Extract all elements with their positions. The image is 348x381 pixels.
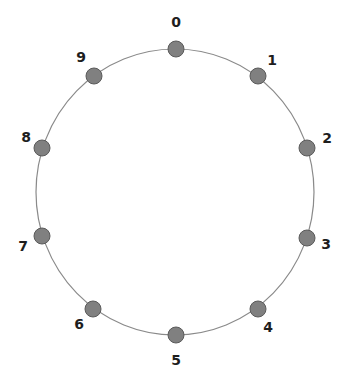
- node-3: [299, 230, 315, 246]
- node-4: [250, 301, 266, 317]
- node-1: [250, 68, 266, 84]
- node-label-3: 3: [321, 236, 331, 252]
- node-0: [168, 41, 184, 57]
- node-label-6: 6: [74, 316, 84, 332]
- node-6: [85, 301, 101, 317]
- node-label-5: 5: [171, 352, 181, 368]
- ring-diagram: 0123456789: [0, 0, 348, 381]
- node-label-8: 8: [21, 129, 31, 145]
- node-label-4: 4: [263, 319, 273, 335]
- node-label-9: 9: [76, 49, 86, 65]
- node-label-2: 2: [322, 130, 332, 146]
- node-5: [168, 327, 184, 343]
- node-label-0: 0: [171, 14, 181, 30]
- ring-path: [36, 49, 314, 335]
- node-2: [299, 140, 315, 156]
- node-8: [34, 140, 50, 156]
- node-7: [34, 228, 50, 244]
- node-9: [86, 68, 102, 84]
- node-label-1: 1: [267, 52, 277, 68]
- node-label-7: 7: [18, 238, 28, 254]
- node-group: 0123456789: [18, 14, 332, 368]
